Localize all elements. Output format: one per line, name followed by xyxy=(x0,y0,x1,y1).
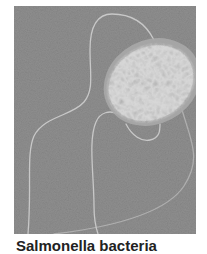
bacterium-illustration xyxy=(14,6,196,234)
micrograph-image xyxy=(14,6,196,234)
figure-caption: Salmonella bacteria xyxy=(16,238,157,253)
